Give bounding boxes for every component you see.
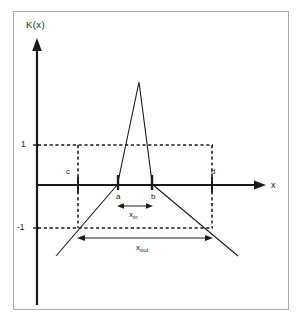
point-label-b: b (151, 193, 155, 201)
figure-root: K(x) x 1 -1 c a b d xin xout (0, 0, 304, 322)
measure-x-out-sub: out (140, 247, 148, 253)
y-axis-label: K(x) (26, 20, 45, 30)
point-label-a: a (116, 193, 120, 201)
positive-lobe-curve (118, 82, 152, 182)
plot-canvas (0, 0, 304, 322)
x-axis-arrowhead (254, 180, 266, 189)
point-label-c: c (66, 168, 70, 176)
measure-x-in-sub: in (133, 214, 138, 220)
point-label-d: d (211, 168, 215, 176)
y-tick-label-minus-one: -1 (17, 223, 25, 232)
measure-label-x-in: xin (129, 211, 138, 219)
negative-lobe-right-curve (152, 184, 238, 256)
measure-label-x-out: xout (136, 244, 148, 252)
span-arrow-x-out (77, 235, 213, 241)
x-axis-label: x (271, 181, 276, 190)
y-axis-arrowhead (32, 38, 42, 51)
y-tick-label-plus-one: 1 (21, 140, 26, 149)
negative-lobe-left-curve (56, 184, 118, 256)
span-arrow-x-in (117, 203, 153, 209)
y-axis (32, 38, 42, 305)
